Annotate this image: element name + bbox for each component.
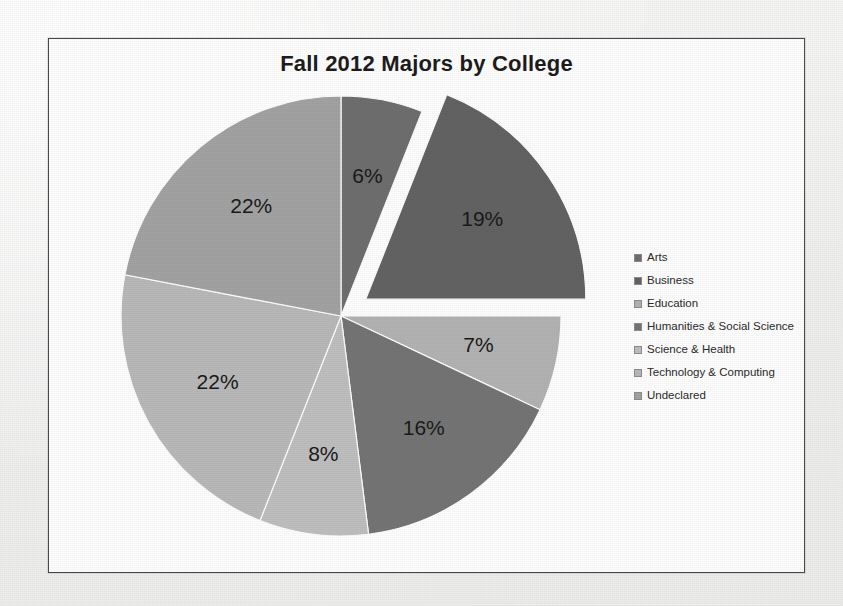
pie-chart-svg: 6%19%7%16%8%22%22%: [49, 39, 649, 574]
pie-slice-label: 6%: [352, 164, 382, 187]
legend-item[interactable]: Technology & Computing: [634, 362, 809, 384]
legend-item-label: Education: [647, 298, 698, 310]
legend-swatch-icon: [634, 277, 642, 285]
legend-item[interactable]: Undeclared: [634, 385, 809, 407]
chart-legend: ArtsBusinessEducationHumanities & Social…: [634, 247, 809, 408]
pie-slice-label: 22%: [197, 370, 239, 393]
legend-item-label: Science & Health: [647, 344, 735, 356]
legend-item-label: Business: [647, 275, 694, 287]
pie-slice-label: 16%: [403, 416, 445, 439]
pie-slices-group: [121, 95, 586, 536]
legend-swatch-icon: [634, 369, 642, 377]
legend-item[interactable]: Business: [634, 270, 809, 292]
legend-item-label: Arts: [647, 252, 667, 264]
legend-swatch-icon: [634, 254, 642, 262]
chart-frame: Fall 2012 Majors by College 6%19%7%16%8%…: [48, 38, 805, 573]
legend-item-label: Technology & Computing: [647, 367, 775, 379]
legend-item-label: Undeclared: [647, 390, 706, 402]
legend-item-label: Humanities & Social Science: [647, 321, 794, 333]
legend-item[interactable]: Arts: [634, 247, 809, 269]
legend-item[interactable]: Education: [634, 293, 809, 315]
legend-swatch-icon: [634, 323, 642, 331]
legend-swatch-icon: [634, 300, 642, 308]
pie-slice-label: 7%: [463, 333, 493, 356]
pie-slice-label: 22%: [230, 194, 272, 217]
legend-item[interactable]: Humanities & Social Science: [634, 316, 809, 338]
pie-slice-label: 8%: [308, 442, 338, 465]
pie-slice-label: 19%: [461, 207, 503, 230]
legend-swatch-icon: [634, 392, 642, 400]
legend-item[interactable]: Science & Health: [634, 339, 809, 361]
legend-swatch-icon: [634, 346, 642, 354]
pie-chart-area[interactable]: 6%19%7%16%8%22%22%: [49, 39, 649, 574]
